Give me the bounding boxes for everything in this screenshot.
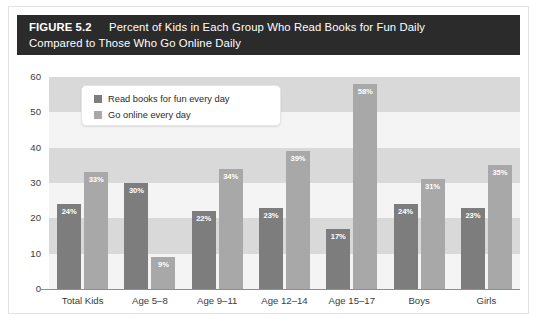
bar-read-books: 17% [326,229,350,289]
x-axis-category-label: Age 9–11 [184,295,251,306]
chart-legend: Read books for fun every day Go online e… [81,85,281,126]
x-axis-category-label: Age 15–17 [318,295,385,306]
bar-read-books: 22% [192,211,216,289]
y-axis-tick-label: 10 [11,248,41,259]
bar-read-books: 23% [461,208,485,289]
bar-value-label: 33% [84,175,108,184]
grid-band [49,218,520,253]
y-axis-tick-label: 60 [11,71,41,82]
legend-label-go-online: Go online every day [108,110,191,120]
grid-band [49,183,520,218]
y-axis-tick-label: 20 [11,212,41,223]
legend-label-read-books: Read books for fun every day [108,94,229,104]
bar-value-label: 9% [151,260,175,269]
figure-container: FIGURE 5.2 Percent of Kids in Each Group… [8,6,529,314]
bar-go-online: 39% [286,151,310,289]
legend-swatch-icon-read-books [94,95,102,103]
bar-value-label: 39% [286,154,310,163]
bar-value-label: 34% [219,172,243,181]
legend-item-read-books: Read books for fun every day [94,92,280,106]
bar-value-label: 35% [488,168,512,177]
x-axis-category-label: Total Kids [49,295,116,306]
bar-value-label: 58% [353,87,377,96]
bar-go-online: 35% [488,165,512,289]
bar-go-online: 33% [84,172,108,289]
bar-read-books: 24% [394,204,418,289]
bar-value-label: 17% [326,232,350,241]
bar-read-books: 30% [124,183,148,289]
figure-number: FIGURE 5.2 [29,21,92,33]
x-axis-category-label: Boys [385,295,452,306]
y-axis-tick-label: 30 [11,177,41,188]
bar-value-label: 23% [461,211,485,220]
figure-title-bar: FIGURE 5.2 Percent of Kids in Each Group… [17,15,520,55]
bar-value-label: 24% [394,207,418,216]
grid-band [49,254,520,289]
figure-title-line-2: Compared to Those Who Go Online Daily [29,36,510,52]
x-axis-category-label: Age 12–14 [251,295,318,306]
bar-go-online: 58% [353,84,377,289]
bar-read-books: 24% [57,204,81,289]
bar-value-label: 22% [192,214,216,223]
y-axis-tick-label: 40 [11,142,41,153]
bar-go-online: 31% [421,179,445,289]
x-axis-line [41,289,520,290]
y-axis-tick-label: 50 [11,106,41,117]
bar-go-online: 34% [219,169,243,289]
legend-swatch-icon-go-online [94,111,102,119]
bar-value-label: 31% [421,182,445,191]
y-axis-tick-label: 0 [11,283,41,294]
bar-go-online: 9% [151,257,175,289]
legend-item-go-online: Go online every day [94,108,280,122]
bar-value-label: 30% [124,186,148,195]
x-axis-category-label: Girls [453,295,520,306]
grid-band [49,148,520,183]
bar-value-label: 24% [57,207,81,216]
figure-title-line-1: FIGURE 5.2 Percent of Kids in Each Group… [29,20,510,36]
bar-value-label: 23% [259,211,283,220]
figure-title-text-1: Percent of Kids in Each Group Who Read B… [109,21,425,33]
x-axis-category-label: Age 5–8 [116,295,183,306]
bar-read-books: 23% [259,208,283,289]
